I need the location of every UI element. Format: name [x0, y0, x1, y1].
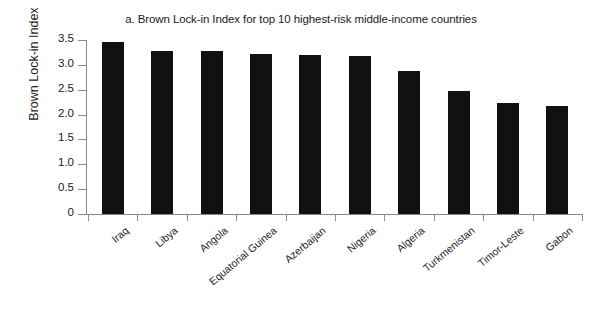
chart-title: a. Brown Lock-in Index for top 10 highes…	[0, 13, 602, 25]
x-axis-tick-label: Nigeria	[344, 224, 377, 255]
bar[interactable]	[250, 54, 272, 214]
x-axis-tick	[187, 215, 188, 221]
y-axis-tick-label: 3.0	[28, 57, 74, 69]
plot-area	[88, 40, 582, 214]
x-axis-tick	[483, 215, 484, 221]
x-axis-tick-label: Gabon	[543, 224, 575, 253]
x-axis-tick-label: Azerbaijan	[282, 224, 328, 265]
y-axis-tick-label: 3.5	[28, 32, 74, 44]
y-axis-tick-label: 2.5	[28, 82, 74, 94]
x-axis-tick-label-text: Timor-Leste	[475, 224, 525, 269]
x-axis-tick	[137, 215, 138, 221]
y-axis-tick	[78, 214, 86, 215]
x-axis-tick-label-text: Azerbaijan	[282, 224, 328, 265]
x-axis-tick	[384, 215, 385, 221]
x-axis-tick	[88, 215, 89, 221]
bar-chart-figure: a. Brown Lock-in Index for top 10 highes…	[0, 0, 602, 312]
x-axis-tick	[236, 215, 237, 221]
x-axis-tick	[335, 215, 336, 221]
y-axis-title: Brown Lock-in Index	[27, 0, 41, 144]
x-axis-tick	[582, 215, 583, 221]
bar[interactable]	[448, 91, 470, 214]
x-axis-tick-label: Angola	[196, 224, 229, 254]
x-axis-tick-label-text: Iraq	[109, 224, 131, 245]
y-axis-line	[86, 40, 87, 215]
y-axis-tick	[78, 65, 86, 66]
y-axis-tick-label: 2.0	[28, 107, 74, 119]
y-axis-tick-label: 1.0	[28, 156, 74, 168]
x-axis-tick-label: Turkmenistan	[420, 224, 476, 274]
x-axis-tick	[533, 215, 534, 221]
x-axis-tick-label-text: Nigeria	[344, 224, 377, 255]
y-axis-tick	[78, 164, 86, 165]
x-axis-tick-label-text: Libya	[153, 224, 180, 249]
x-axis-tick-label-text: Gabon	[543, 224, 575, 253]
y-axis-tick	[78, 139, 86, 140]
y-axis-tick-label: 1.5	[28, 131, 74, 143]
y-axis-tick-label: 0	[28, 206, 74, 218]
bar[interactable]	[497, 103, 519, 214]
y-axis-tick	[78, 189, 86, 190]
y-axis-tick	[78, 90, 86, 91]
x-axis-tick-label: Algeria	[394, 224, 427, 254]
bar[interactable]	[151, 51, 173, 214]
x-axis-tick-label: Libya	[153, 224, 180, 249]
bar[interactable]	[398, 71, 420, 214]
x-axis-tick-label-text: Turkmenistan	[420, 224, 476, 274]
x-axis-tick-label: Timor-Leste	[475, 224, 525, 269]
x-axis-tick	[286, 215, 287, 221]
bar[interactable]	[349, 56, 371, 214]
bar[interactable]	[201, 51, 223, 214]
bar[interactable]	[299, 55, 321, 214]
x-axis-tick-label-text: Algeria	[394, 224, 427, 254]
bar[interactable]	[102, 42, 124, 215]
x-axis-tick-label-text: Angola	[196, 224, 229, 254]
y-axis-tick	[78, 115, 86, 116]
y-axis-tick	[78, 40, 86, 41]
x-axis-tick-label: Iraq	[109, 224, 131, 245]
y-axis-tick-label: 0.5	[28, 181, 74, 193]
bar[interactable]	[546, 106, 568, 214]
x-axis-tick	[434, 215, 435, 221]
